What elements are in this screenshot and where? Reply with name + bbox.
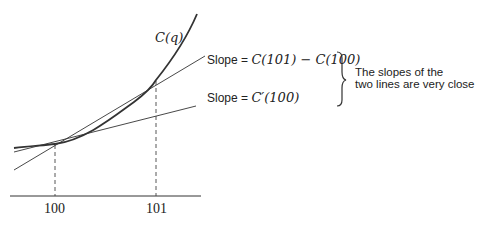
tangent-slope-label: Slope = C′(100) bbox=[207, 88, 299, 106]
diagram-canvas: C(q) Slope = C(101) − C(100) Slope = C′(… bbox=[0, 0, 480, 226]
diagram-graphics bbox=[0, 0, 480, 226]
secant-slope-expr: C(101) − C(100) bbox=[251, 52, 360, 67]
secant-line bbox=[14, 56, 205, 170]
slopes-note-line1: The slopes of the bbox=[355, 66, 475, 78]
secant-slope-label: Slope = C(101) − C(100) bbox=[207, 50, 360, 68]
x-tick-100: 100 bbox=[44, 201, 65, 217]
slopes-note: The slopes of the two lines are very clo… bbox=[355, 66, 475, 90]
tangent-slope-expr: C′(100) bbox=[251, 90, 299, 105]
tangent-slope-prefix: Slope = bbox=[207, 91, 251, 105]
x-tick-101: 101 bbox=[146, 201, 167, 217]
slopes-note-line2: two lines are very close bbox=[355, 78, 475, 90]
secant-slope-prefix: Slope = bbox=[207, 53, 251, 67]
curve-label: C(q) bbox=[155, 30, 183, 45]
